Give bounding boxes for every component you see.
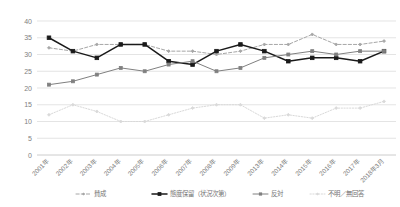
data-point	[311, 117, 314, 120]
data-point	[239, 43, 243, 47]
x-axis-tick-label: 2007年	[173, 156, 194, 177]
data-point	[239, 50, 242, 53]
data-point	[334, 56, 338, 60]
data-point	[383, 100, 386, 103]
data-point	[287, 59, 291, 63]
y-axis-tick-label: 5	[28, 135, 32, 142]
data-point	[191, 60, 194, 63]
data-point	[263, 49, 267, 53]
x-axis-tick-label: 2013年	[245, 156, 266, 177]
data-point	[359, 50, 362, 53]
x-axis-tick-label: 2015年	[293, 156, 314, 177]
legend-item-label[interactable]: 不明／無回答	[328, 189, 365, 198]
data-point	[335, 53, 338, 56]
data-point	[215, 53, 218, 56]
data-point	[383, 50, 386, 53]
data-point	[143, 43, 147, 47]
data-point	[95, 110, 98, 113]
x-axis-tick-label: 2006年	[149, 156, 170, 177]
data-point	[167, 59, 171, 63]
data-point	[95, 73, 98, 76]
x-axis-tick-label: 2018年3月	[358, 157, 385, 184]
data-point	[71, 80, 74, 83]
data-point	[95, 56, 99, 60]
data-point	[95, 43, 98, 46]
data-point	[119, 43, 123, 47]
y-axis-tick-labels: 0510152025303540	[24, 18, 32, 159]
data-point	[358, 59, 362, 63]
legend-marker-swatch	[316, 192, 319, 195]
x-axis-tick-label: 2014年	[269, 156, 290, 177]
data-point	[311, 50, 314, 53]
x-axis-tick-labels: 2001年2002年2003年2004年2005年2006年2007年2008年…	[30, 156, 386, 184]
data-point	[359, 107, 362, 110]
data-point	[383, 40, 386, 43]
y-axis-tick-label: 25	[24, 68, 32, 75]
data-point	[263, 43, 266, 46]
data-point	[119, 120, 122, 123]
legend-item-label[interactable]: 賛成	[94, 189, 107, 198]
data-point	[167, 50, 170, 53]
data-point	[311, 33, 314, 36]
data-point	[335, 107, 338, 110]
series-4	[47, 100, 385, 123]
data-point	[335, 43, 338, 46]
data-point	[215, 49, 219, 53]
legend-marker-swatch	[158, 192, 162, 196]
series-2	[47, 36, 386, 66]
chart-canvas: 0510152025303540 2001年2002年2003年2004年200…	[0, 0, 400, 207]
data-point	[167, 113, 170, 116]
data-point	[191, 63, 195, 67]
data-point	[287, 113, 290, 116]
data-point	[119, 66, 122, 69]
y-axis-tick-label: 0	[28, 152, 32, 159]
data-point	[71, 103, 74, 106]
y-axis-tick-label: 15	[24, 101, 32, 108]
y-axis-tick-label: 30	[24, 51, 32, 58]
legend-item-label[interactable]: 反対	[271, 189, 284, 198]
x-axis-tick-label: 2003年	[78, 156, 99, 177]
x-axis-tick-label: 2001年	[30, 156, 51, 177]
x-axis-tick-label: 2017年	[341, 156, 362, 177]
data-point	[359, 43, 362, 46]
x-axis-tick-label: 2008年	[197, 156, 218, 177]
data-point	[191, 107, 194, 110]
data-point	[47, 36, 51, 40]
data-point	[47, 83, 50, 86]
x-axis-tick-label: 2016年	[317, 156, 338, 177]
x-axis-tick-label: 2005年	[125, 156, 146, 177]
legend-marker-swatch	[259, 192, 262, 195]
y-axis-tick-label: 35	[24, 34, 32, 41]
x-axis-tick-label: 2004年	[102, 156, 123, 177]
legend-marker-swatch	[82, 192, 85, 195]
data-point	[71, 49, 75, 53]
data-point	[167, 63, 170, 66]
gridlines-group	[37, 21, 396, 155]
data-point	[310, 56, 314, 60]
data-point	[143, 120, 146, 123]
line-chart: 0510152025303540 2001年2002年2003年2004年200…	[0, 0, 400, 207]
x-axis-tick-label: 2009年	[221, 156, 242, 177]
data-point	[263, 56, 266, 59]
chart-legend: 賛成態度保留（状況次第）反対不明／無回答	[76, 189, 365, 198]
y-axis-tick-label: 10	[24, 118, 32, 125]
data-point	[47, 46, 50, 49]
y-axis-tick-label: 40	[24, 18, 32, 25]
data-point	[191, 50, 194, 53]
data-point	[47, 113, 50, 116]
data-series-group	[47, 33, 386, 123]
data-point	[287, 53, 290, 56]
data-point	[143, 70, 146, 73]
data-point	[239, 66, 242, 69]
data-point	[215, 103, 218, 106]
legend-item-label[interactable]: 態度保留（状況次第）	[170, 189, 230, 198]
x-axis-tick-label: 2002年	[54, 156, 75, 177]
y-axis-tick-label: 20	[24, 85, 32, 92]
data-point	[287, 43, 290, 46]
data-point	[215, 70, 218, 73]
